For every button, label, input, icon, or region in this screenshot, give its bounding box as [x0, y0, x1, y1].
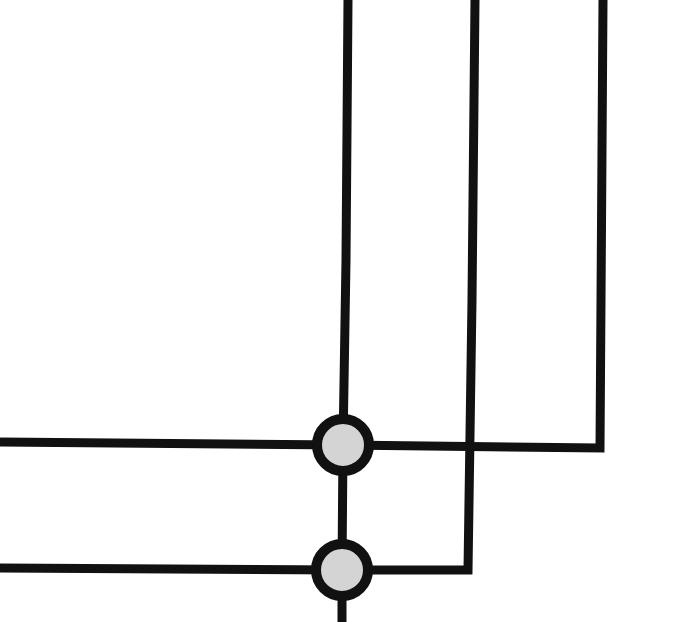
- vertical-wire-2: [342, 0, 475, 570]
- vertical-wire-1: [342, 0, 348, 622]
- horizontal-wire-2: [0, 568, 342, 570]
- junction-node-2: [316, 544, 368, 596]
- wiring-diagram: [0, 0, 684, 622]
- horizontal-wire-1: [0, 442, 343, 445]
- junction-node-1: [317, 419, 369, 471]
